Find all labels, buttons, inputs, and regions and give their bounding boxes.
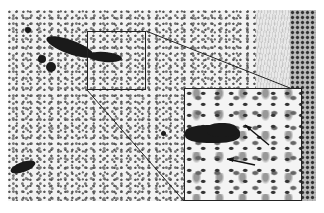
zoom-connector-lines: [0, 0, 324, 213]
